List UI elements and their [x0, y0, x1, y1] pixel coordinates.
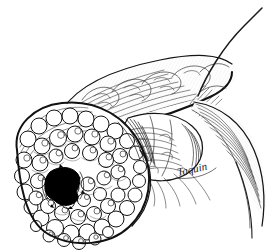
anatomical-illustration: Pancreatic head tumor with necrotic cavi… — [0, 0, 274, 252]
illustration-canvas: Pancreatic head tumor with necrotic cavi… — [0, 0, 274, 252]
